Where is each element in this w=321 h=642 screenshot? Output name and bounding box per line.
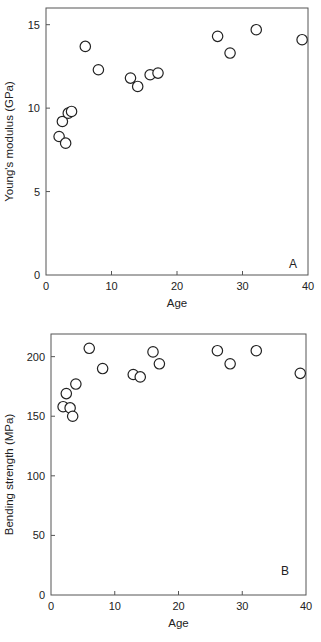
y-axis-label: Bending strength (MPa) [3,414,15,536]
y-tick-label: 150 [27,410,45,422]
x-tick-label: 40 [300,600,312,612]
data-point [97,363,107,373]
x-tick-label: 0 [48,600,54,612]
y-tick-label: 15 [28,19,40,31]
panel-label: A [289,257,297,271]
y-tick-label: 200 [27,351,45,363]
x-tick-label: 20 [172,600,184,612]
x-tick-label: 0 [43,280,49,292]
data-point [125,73,135,83]
y-tick-label: 50 [33,529,45,541]
y-tick-label: 10 [28,102,40,114]
data-point [225,359,235,369]
data-point [84,343,94,353]
panel-label: B [281,564,289,578]
chart-a: 010203040051015AgeYoung's modulus (GPa)A [3,8,314,309]
data-point [71,379,81,389]
data-point [133,81,143,91]
data-point [225,48,235,58]
chart-b: 010203040050100150200AgeBending strength… [3,334,312,629]
data-point [61,388,71,398]
x-tick-label: 10 [109,600,121,612]
y-axis-label: Young's modulus (GPa) [3,81,15,202]
data-point [153,68,163,78]
y-tick-label: 0 [34,269,40,281]
data-point [212,31,222,41]
data-point [295,368,305,378]
data-point [60,138,70,148]
data-point [80,41,90,51]
data-point [148,347,158,357]
data-point [135,372,145,382]
x-tick-label: 10 [105,280,117,292]
x-tick-label: 40 [302,280,314,292]
x-tick-label: 30 [236,600,248,612]
x-axis-label: Age [168,617,188,629]
data-point [212,345,222,355]
y-tick-label: 100 [27,470,45,482]
x-tick-label: 20 [171,280,183,292]
figure: 010203040051015AgeYoung's modulus (GPa)A… [0,0,321,642]
x-tick-label: 30 [236,280,248,292]
y-tick-label: 5 [34,186,40,198]
data-point [93,65,103,75]
data-point [154,359,164,369]
y-tick-label: 0 [39,589,45,601]
data-point [251,24,261,34]
plot-frame [51,334,306,595]
data-point [297,35,307,45]
data-point [67,411,77,421]
x-axis-label: Age [167,297,187,309]
data-point [251,345,261,355]
data-point [66,106,76,116]
